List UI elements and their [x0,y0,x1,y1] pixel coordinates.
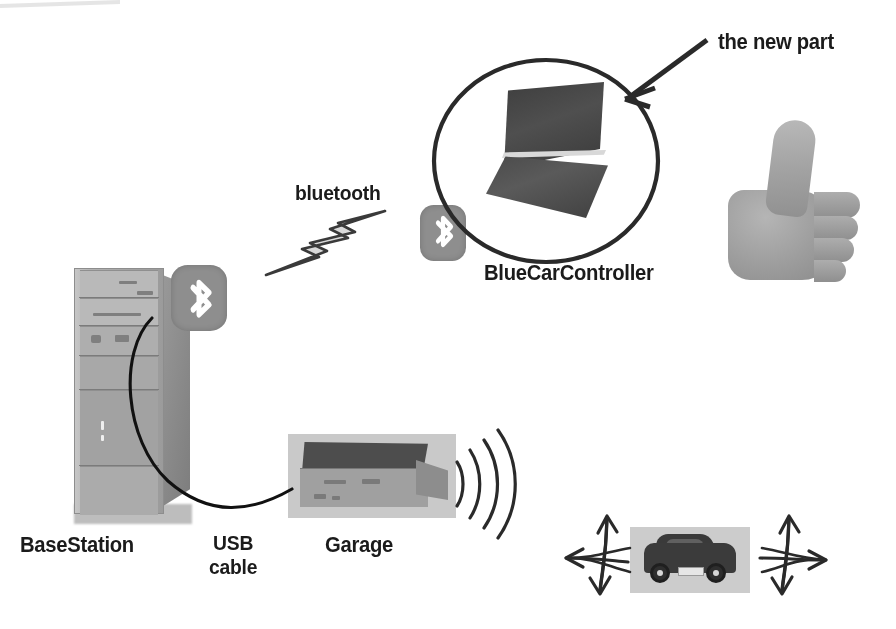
controller-laptop-image [486,82,612,220]
radio-waves-icon [457,430,515,538]
garage-node-label: Garage [325,533,393,556]
usb-cable-node-label: USB cable [200,531,266,578]
toy-car-image [630,527,750,593]
new-part-annotation-label: the new part [718,30,834,53]
bluetooth-icon [420,205,466,261]
bluetooth-link-label: bluetooth [295,182,381,204]
multi-direction-arrow-icon [566,516,630,594]
scan-artifact [0,2,120,6]
basestation-node-label: BaseStation [20,533,134,556]
bluetooth-icon [171,265,227,331]
multi-direction-arrow-icon [760,516,826,594]
controller-node-label: BlueCarController [484,261,654,284]
lightning-bolt-icon [266,211,385,275]
thumbs-up-image [726,118,874,286]
garage-device-image [288,434,456,518]
diagram-canvas: the new part bluetooth BlueCarController… [0,0,896,629]
new-part-annotation-arrow [625,40,707,107]
